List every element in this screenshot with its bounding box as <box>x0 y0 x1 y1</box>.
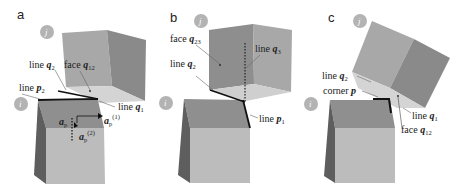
panel-letter-c: c <box>328 10 335 25</box>
block-i-top-face <box>184 99 250 128</box>
block-i-front-face <box>190 128 250 183</box>
face-q23-dot <box>219 64 221 66</box>
panel-c: c j i line q2 corner p <box>304 10 450 183</box>
face-q12-dot <box>89 90 91 92</box>
panel-letter-b: b <box>170 10 177 25</box>
block-j-letter: j <box>357 16 361 26</box>
panel-a: a j i <box>14 7 146 184</box>
label-line-q2: line q2 <box>29 59 55 71</box>
block-i-label-a: i <box>14 97 28 111</box>
panel-letter-a: a <box>17 7 25 22</box>
block-i-top-face <box>38 100 104 128</box>
block-i-front-face <box>335 128 395 183</box>
figure-canvas: a j i <box>0 0 466 194</box>
line-p2 <box>38 99 98 100</box>
block-i-top-face <box>330 100 395 128</box>
panel-b: b j i face q23 <box>159 10 292 183</box>
block-j-c <box>352 21 450 108</box>
block-j-label-c: j <box>353 14 367 28</box>
block-j-b <box>209 24 292 101</box>
block-j-side-face <box>253 24 292 92</box>
label-line-q2: line q2 <box>322 70 348 82</box>
block-i-c <box>324 100 395 183</box>
block-j-front-face <box>209 24 254 90</box>
leader-line-q2 <box>55 70 66 90</box>
block-i-front-face <box>46 128 105 184</box>
block-j-label-b: j <box>194 14 208 28</box>
label-line-q2: line q2 <box>170 58 196 70</box>
label-line-p1: line p1 <box>259 113 285 125</box>
label-a-p1: ap(1) <box>104 113 120 127</box>
block-i-b <box>178 99 250 183</box>
block-j-label-a: j <box>40 25 54 39</box>
block-j-letter: j <box>198 16 202 26</box>
block-i-label-c: i <box>304 97 318 111</box>
block-i-label-b: i <box>159 96 173 110</box>
label-line-q1: line q1 <box>412 110 438 122</box>
label-face-q23: face q23 <box>170 33 201 45</box>
label-line-p2: line p2 <box>19 82 45 94</box>
label-line-q1: line q1 <box>118 101 144 113</box>
face-q12-dot <box>397 95 399 97</box>
label-corner-p: corner p <box>323 85 356 96</box>
leader-line-q1 <box>403 108 411 113</box>
label-line-q3: line q3 <box>255 43 281 55</box>
block-j-letter: j <box>44 27 48 37</box>
block-i-a <box>34 100 105 184</box>
leader-line-p1 <box>250 115 258 118</box>
label-face-q12: face q12 <box>401 124 432 136</box>
